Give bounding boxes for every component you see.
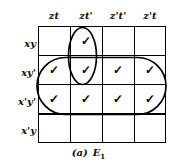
figure-caption: (a)E1 [0, 147, 177, 161]
row-label-2: x'y' [2, 95, 36, 109]
check-mark: ✓ [48, 63, 60, 77]
row-label-1: xy' [2, 66, 36, 80]
grid-horizontal-line-1 [39, 55, 165, 56]
caption-subscript: 1 [100, 152, 105, 161]
check-mark: ✓ [144, 63, 156, 77]
check-mark: ✓ [80, 63, 92, 77]
kmap-grid [38, 26, 166, 143]
check-mark: ✓ [80, 92, 92, 106]
check-mark: ✓ [112, 63, 124, 77]
check-mark: ✓ [144, 92, 156, 106]
column-header-3: z't [134, 9, 166, 23]
check-mark: ✓ [48, 92, 60, 106]
column-header-1: zt' [70, 9, 102, 23]
caption-label: (a) [72, 147, 88, 158]
grid-horizontal-line-2 [39, 84, 165, 85]
check-mark: ✓ [112, 92, 124, 106]
row-label-0: xy [2, 37, 36, 51]
column-header-2: z't' [102, 9, 134, 23]
grid-horizontal-line-3 [39, 113, 165, 114]
column-header-0: zt [38, 9, 70, 23]
check-mark: ✓ [80, 34, 92, 48]
row-label-3: x'y [2, 124, 36, 138]
karnaugh-map-figure: zt zt' z't' z't xy xy' x'y' x'y ✓✓✓✓✓✓✓✓… [0, 0, 177, 166]
